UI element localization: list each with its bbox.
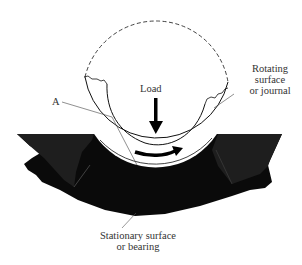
journal-disk <box>83 22 229 168</box>
rotating-label-line-3: or journal <box>238 85 302 96</box>
rotating-label-line-1: Rotating <box>238 63 302 74</box>
leader-stationary <box>122 213 136 228</box>
bearing-diagram <box>0 0 302 265</box>
load-label: Load <box>140 83 162 94</box>
rotating-label-line-2: surface <box>238 74 302 85</box>
stationary-label-line-1: Stationary surface <box>83 230 193 241</box>
stationary-label-line-2: or bearing <box>83 241 193 252</box>
stationary-surface-label: Stationary surface or bearing <box>83 230 193 252</box>
rotating-surface-label: Rotating surface or journal <box>238 63 302 96</box>
point-a-label: A <box>52 96 60 107</box>
